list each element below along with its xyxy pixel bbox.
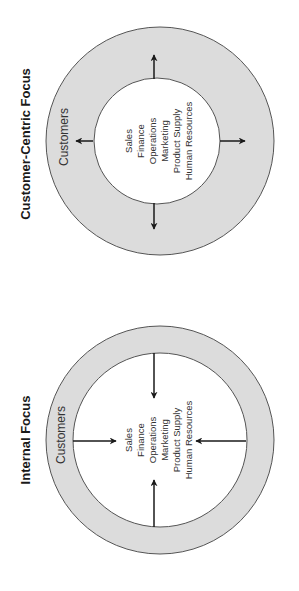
dept-finance: Finance: [135, 423, 146, 457]
dept-marketing: Marketing: [159, 120, 170, 162]
customers-label: Customers: [54, 406, 68, 464]
customer-centric-diagram: Customer-Centric Focus Customers Sales F…: [18, 27, 274, 255]
diagram-canvas: Customer-Centric Focus Customers Sales F…: [0, 0, 299, 591]
dept-marketing: Marketing: [159, 419, 170, 461]
dept-human-resources: Human Resources: [183, 400, 194, 479]
dept-operations: Operations: [147, 118, 158, 165]
dept-sales: Sales: [123, 129, 134, 153]
dept-product-supply: Product Supply: [171, 408, 182, 473]
internal-focus-title: Internal Focus: [18, 396, 33, 485]
customers-label: Customers: [57, 108, 71, 166]
customer-centric-title: Customer-Centric Focus: [18, 68, 33, 220]
dept-operations: Operations: [147, 417, 158, 464]
dept-sales: Sales: [123, 428, 134, 452]
dept-finance: Finance: [135, 124, 146, 158]
dept-product-supply: Product Supply: [171, 109, 182, 174]
internal-focus-diagram: Internal Focus Customers Sales Finance O…: [18, 326, 274, 554]
dept-human-resources: Human Resources: [183, 101, 194, 180]
